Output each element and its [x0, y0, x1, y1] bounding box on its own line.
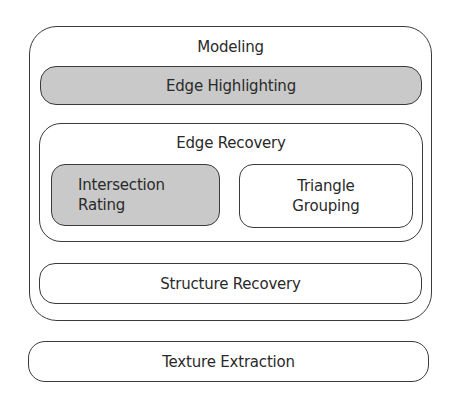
texture-extraction-box: Texture Extraction — [28, 341, 429, 382]
edge-recovery-group: Edge Recovery Intersection Rating Triang… — [39, 123, 423, 242]
triangle-grouping-box: Triangle Grouping — [239, 164, 413, 228]
modeling-title: Modeling — [30, 38, 431, 56]
structure-recovery-box: Structure Recovery — [39, 263, 422, 304]
edge-recovery-title: Edge Recovery — [40, 134, 422, 152]
triangle-grouping-label: Triangle Grouping — [240, 165, 412, 227]
intersection-rating-box: Intersection Rating — [51, 164, 220, 226]
intersection-rating-label: Intersection Rating — [52, 165, 219, 225]
edge-highlighting-box: Edge Highlighting — [40, 66, 422, 105]
modeling-group: Modeling Edge Highlighting Edge Recovery… — [29, 26, 432, 321]
structure-recovery-label: Structure Recovery — [40, 264, 421, 303]
edge-highlighting-label: Edge Highlighting — [41, 67, 421, 104]
texture-extraction-label: Texture Extraction — [29, 342, 428, 381]
